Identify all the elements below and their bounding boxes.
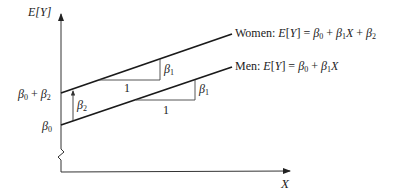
intercept-women-label: β0 + β2	[18, 88, 51, 102]
men-equation-label: Men: E[Y] = β0 + β1X	[235, 60, 338, 74]
women-run-label: 1	[124, 82, 130, 94]
women-prefix: Women:	[235, 26, 278, 40]
x-axis-label: X	[281, 177, 289, 190]
intercept-men-label: β0	[42, 120, 52, 134]
x-axis	[61, 171, 290, 172]
y-axis-label: E[Y]	[28, 6, 51, 18]
men-prefix: Men:	[235, 59, 263, 73]
women-equation-label: Women: E[Y] = β0 + β1X + β2	[235, 27, 376, 41]
axis-break-icon	[58, 149, 64, 160]
gap-label: β2	[77, 99, 87, 113]
women-rise-label: β1	[164, 63, 174, 77]
men-run-label: 1	[163, 104, 169, 116]
men-rise-label: β1	[199, 83, 209, 97]
